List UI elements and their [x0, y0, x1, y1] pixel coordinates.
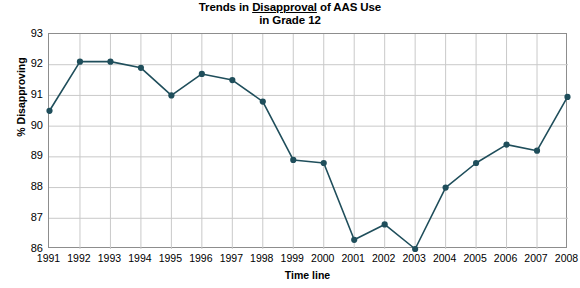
y-tick-label-88: 88 — [3, 181, 43, 192]
chart-subtitle: in Grade 12 — [0, 14, 580, 27]
data-point — [168, 92, 174, 98]
x-tick-label-2008: 2008 — [545, 253, 580, 264]
chart-title: Trends in Disapproval of AAS Use in Grad… — [0, 1, 580, 27]
y-tick-label-92: 92 — [3, 58, 43, 69]
y-tick-label-93: 93 — [3, 28, 43, 39]
y-tick-label-91: 91 — [3, 89, 43, 100]
data-point — [564, 94, 570, 100]
chart-title-part-2: of AAS Use — [317, 1, 381, 13]
chart-figure: Trends in Disapproval of AAS Use in Grad… — [0, 0, 580, 288]
x-axis-title: Time line — [48, 269, 567, 281]
data-point — [473, 160, 479, 166]
chart-title-underlined-word: Disapproval — [252, 1, 317, 13]
data-point — [229, 77, 235, 83]
data-point — [260, 98, 266, 104]
data-point — [46, 108, 52, 114]
chart-title-part-1: Trends in — [199, 1, 252, 13]
y-tick-label-87: 87 — [3, 212, 43, 223]
data-point — [503, 141, 509, 147]
data-point — [290, 157, 296, 163]
data-point — [382, 221, 388, 227]
data-point — [351, 237, 357, 243]
data-series-line — [49, 34, 568, 249]
data-point — [199, 71, 205, 77]
data-point — [443, 184, 449, 190]
data-point — [138, 65, 144, 71]
data-point — [534, 148, 540, 154]
y-tick-label-90: 90 — [3, 120, 43, 131]
plot-area — [48, 33, 567, 248]
data-point — [107, 59, 113, 65]
y-tick-label-89: 89 — [3, 150, 43, 161]
data-point — [77, 59, 83, 65]
data-point — [321, 160, 327, 166]
data-point — [412, 246, 418, 252]
